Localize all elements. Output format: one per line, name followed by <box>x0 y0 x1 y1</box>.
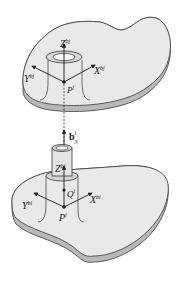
lower-plate-top <box>12 166 168 257</box>
upper-body: Zbj Xbj Ybj Pj <box>23 17 171 111</box>
lower-shaft-hole <box>56 146 68 150</box>
lower-q-point <box>62 188 65 191</box>
joint-frames-diagram: Zbj Xbj Ybj Pj b3i <box>0 0 180 292</box>
lower-body: Zbi Qi Xbi Ybi Pi <box>12 145 168 263</box>
b3-label: b3i <box>69 130 78 145</box>
upper-origin-point <box>62 80 66 84</box>
lower-origin-point <box>62 205 66 209</box>
